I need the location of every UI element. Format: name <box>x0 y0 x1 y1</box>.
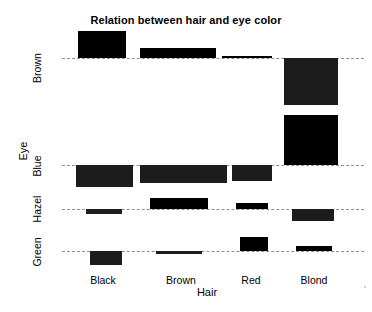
cell-bar-hazel-blond <box>292 209 334 221</box>
cell-bar-hazel-red <box>236 203 268 209</box>
cell-bar-hazel-brown <box>150 198 208 209</box>
cell-bar-brown-blond <box>284 58 338 105</box>
cell-bar-blue-brown <box>140 165 227 183</box>
cell-bar-brown-brown <box>140 48 216 58</box>
cell-bar-green-black <box>90 251 122 265</box>
y-tick-label-brown: Brown <box>31 39 43 97</box>
x-tick-label-brown: Brown <box>149 274 213 286</box>
chart-title: Relation between hair and eye color <box>0 14 372 26</box>
y-axis-title: Eye <box>17 121 29 181</box>
y-tick-label-green: Green <box>31 223 43 281</box>
x-tick-label-black: Black <box>71 274 135 286</box>
cell-bar-blue-red <box>232 165 272 181</box>
cell-bar-blue-black <box>76 165 133 187</box>
cell-bar-green-blond <box>296 246 332 251</box>
x-tick-label-red: Red <box>219 274 283 286</box>
cell-bar-blue-blond <box>284 115 338 165</box>
scan-speck <box>364 286 366 288</box>
cell-bar-green-brown <box>156 251 202 254</box>
cell-bar-brown-black <box>78 31 126 58</box>
x-tick-label-blond: Blond <box>282 274 346 286</box>
x-axis-title: Hair <box>177 286 237 298</box>
cell-bar-hazel-black <box>86 209 122 214</box>
cell-bar-brown-red <box>222 56 272 58</box>
association-plot: Relation between hair and eye color Eye … <box>0 0 372 312</box>
cell-bar-green-red <box>240 237 268 251</box>
